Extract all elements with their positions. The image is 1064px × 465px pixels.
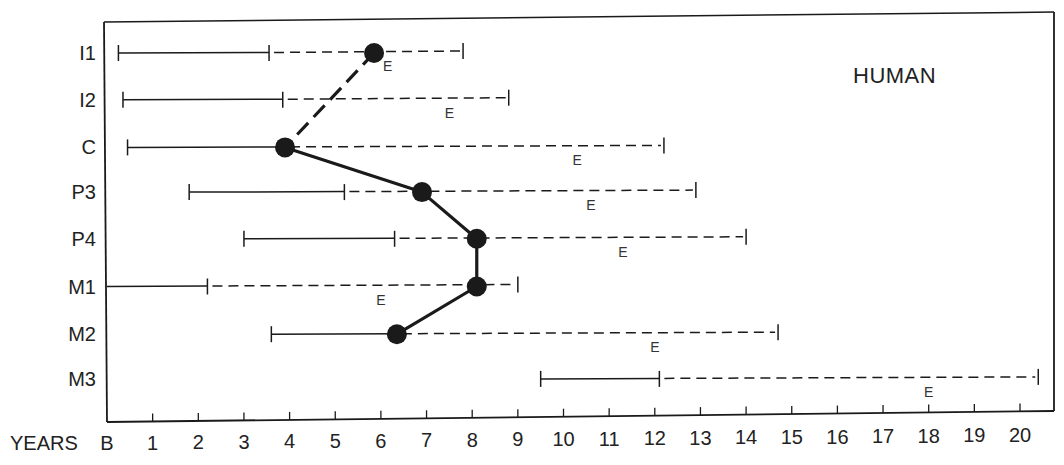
x-tick-label: 7	[421, 429, 432, 451]
row-i2: I2E	[79, 89, 508, 121]
x-tick-label: 11	[599, 428, 620, 450]
solid-range	[189, 192, 344, 193]
x-tick-label: 12	[644, 427, 666, 449]
connector-segment	[422, 192, 477, 239]
x-tick-label: 1	[147, 432, 158, 454]
row-m2: M2E	[68, 323, 778, 355]
data-point-i1	[364, 43, 384, 63]
e-marker: E	[383, 58, 392, 74]
x-tick-label: 8	[467, 429, 478, 451]
chart-title: HUMAN	[853, 63, 936, 88]
e-marker: E	[573, 152, 582, 168]
e-marker: E	[650, 339, 659, 355]
solid-range	[271, 334, 397, 335]
row-label: M3	[68, 368, 96, 390]
x-tick-label: 3	[238, 431, 249, 453]
x-tick-label: 2	[193, 431, 204, 453]
row-p4: P4E	[72, 228, 747, 260]
solid-range	[541, 378, 660, 379]
solid-range	[244, 238, 395, 239]
data-point-m2	[387, 324, 407, 344]
dashed-range	[349, 190, 693, 192]
row-label: M2	[68, 323, 96, 345]
e-marker: E	[586, 197, 595, 213]
x-tick-label: 20	[1009, 424, 1031, 446]
x-tick-label: 5	[330, 430, 341, 452]
x-tick-label: 13	[689, 427, 711, 449]
solid-range	[107, 286, 207, 287]
x-tick-label: 17	[872, 425, 894, 447]
row-label: C	[82, 136, 96, 158]
row-p3: P3E	[72, 181, 696, 213]
e-marker: E	[376, 292, 385, 308]
x-tick-label: B	[100, 432, 113, 454]
connector-segment	[285, 53, 374, 147]
x-tick-label: 18	[918, 425, 940, 447]
row-c: CE	[82, 136, 664, 168]
data-point-p4	[467, 229, 487, 249]
dashed-range	[288, 98, 506, 100]
x-tick-label: 4	[284, 430, 295, 452]
row-m3: M3E	[68, 368, 1038, 400]
data-point-m1	[467, 277, 487, 297]
x-axis-label: YEARS	[10, 432, 78, 454]
solid-range	[123, 99, 283, 100]
x-tick-label: 19	[963, 424, 985, 446]
dashed-range	[402, 332, 775, 334]
row-label: I1	[79, 42, 96, 64]
x-tick-label: 14	[735, 426, 757, 448]
solid-range	[128, 147, 285, 148]
e-marker: E	[924, 384, 933, 400]
solid-range	[118, 53, 269, 54]
e-marker: E	[445, 105, 454, 121]
e-marker: E	[618, 244, 627, 260]
dashed-range	[290, 145, 661, 147]
row-label: I2	[79, 89, 96, 111]
row-label: M1	[68, 276, 96, 298]
dashed-range	[664, 377, 1035, 379]
x-tick-label: 9	[512, 428, 523, 450]
row-label: P3	[72, 181, 96, 203]
tooth-eruption-chart: HUMAN YEARSB1234567891011121314151617181…	[0, 0, 1064, 465]
row-bars: I1EI2ECEP3EP4EM1EM2EM3E	[68, 42, 1038, 400]
data-point-p3	[412, 182, 432, 202]
row-label: P4	[72, 228, 96, 250]
x-axis: YEARSB1234567891011121314151617181920	[10, 403, 1031, 454]
data-point-c	[275, 137, 295, 157]
x-tick-label: 15	[781, 426, 803, 448]
x-tick-label: 16	[826, 426, 848, 448]
connector-segment	[397, 287, 477, 335]
dashed-range	[400, 237, 744, 239]
x-tick-label: 10	[552, 428, 574, 450]
row-i1: I1E	[79, 42, 463, 74]
x-tick-label: 6	[375, 430, 386, 452]
connector-segment	[285, 147, 422, 192]
